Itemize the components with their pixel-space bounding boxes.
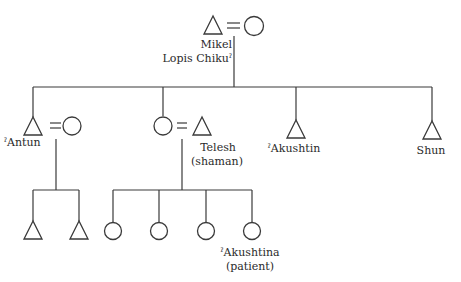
shun-triangle-icon <box>423 121 441 139</box>
akushtina-circle-icon <box>244 223 261 240</box>
antun-label: ˀAntun <box>4 136 41 149</box>
antun-triangle-icon <box>24 117 42 135</box>
kinship-diagram: Mikel Lopis Chikuˀ ˀAntun <box>0 0 461 282</box>
antun-wife-circle-icon <box>63 117 81 135</box>
marriage-equals-icon <box>227 23 240 28</box>
telesh-couple: Telesh (shaman) <box>154 117 243 168</box>
marriage-equals-icon <box>177 123 187 128</box>
telesh-daughter-1-circle-icon <box>105 223 122 240</box>
akushtin-person: ˀAkushtin <box>268 120 321 155</box>
antun-couple: ˀAntun <box>4 117 81 149</box>
akushtin-label: ˀAkushtin <box>268 142 321 155</box>
akushtin-triangle-icon <box>287 120 305 138</box>
telesh-daughter-2-circle-icon <box>151 223 168 240</box>
telesh-daughter-3-circle-icon <box>198 223 215 240</box>
telesh-role: (shaman) <box>191 155 243 168</box>
grandmother-circle-icon <box>245 17 264 36</box>
shun-person: Shun <box>417 121 446 157</box>
antun-son-2-triangle-icon <box>70 221 88 239</box>
marriage-equals-icon <box>50 123 61 128</box>
grandfather-triangle-icon <box>204 16 222 34</box>
akushtina-role: (patient) <box>226 260 274 273</box>
daughter-circle-icon <box>154 117 172 135</box>
antun-son-1-triangle-icon <box>24 221 42 239</box>
telesh-name: Telesh <box>200 141 236 154</box>
grandfather-name-line2: Lopis Chikuˀ <box>163 52 232 65</box>
telesh-triangle-icon <box>193 117 211 135</box>
grandparents-couple: Mikel Lopis Chikuˀ <box>163 16 264 65</box>
akushtina-name: ˀAkushtina <box>220 246 280 259</box>
shun-label: Shun <box>417 144 446 157</box>
grandfather-name-line1: Mikel <box>201 38 233 51</box>
